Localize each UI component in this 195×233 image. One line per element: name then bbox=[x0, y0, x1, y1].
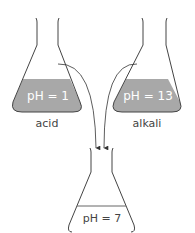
neutral-ph-label: pH = 7 bbox=[76, 212, 128, 225]
alkali-name-label: alkali bbox=[127, 117, 167, 130]
acid-ph-label: pH = 1 bbox=[22, 89, 74, 103]
acid-name-label: acid bbox=[27, 117, 67, 130]
alkali-ph-label: pH = 13 bbox=[120, 89, 176, 103]
